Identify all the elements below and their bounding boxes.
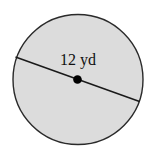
diameter-label: 12 yd xyxy=(60,51,96,69)
diagram-svg: 12 yd xyxy=(0,0,156,156)
circle-diagram: 12 yd xyxy=(0,0,156,156)
center-point xyxy=(73,75,82,84)
